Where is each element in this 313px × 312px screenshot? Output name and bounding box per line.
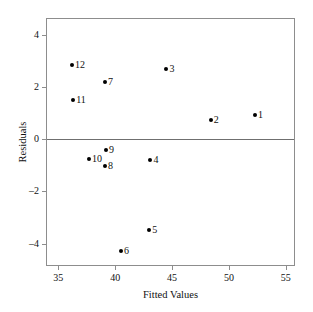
plot-area: 420–2–43540455055123456789101112 [47,19,294,265]
data-point [87,157,91,161]
data-point [71,98,75,102]
y-axis-label: Residuals [17,122,28,163]
y-axis-tick-label: 4 [34,30,39,40]
y-axis-tick [42,87,47,88]
data-point-label: 9 [109,145,114,155]
data-point [148,158,152,162]
data-point [147,228,151,232]
y-axis-tick [42,139,47,140]
x-axis-label: Fitted Values [46,289,295,300]
y-axis-tick [42,35,47,36]
plot-frame: 420–2–43540455055123456789101112 [46,18,295,266]
data-point [70,63,74,67]
data-point-label: 4 [153,155,158,165]
x-axis-tick-label: 50 [224,273,234,283]
data-point [103,80,107,84]
residual-plot-figure: 420–2–43540455055123456789101112 Fitted … [0,0,313,312]
data-point-label: 1 [258,110,263,120]
y-axis-tick [42,191,47,192]
x-axis-tick [172,265,173,270]
data-point-label: 2 [214,115,219,125]
x-axis-tick-label: 45 [167,273,177,283]
y-axis-tick [42,244,47,245]
x-axis-tick-label: 35 [53,273,63,283]
x-axis-tick [115,265,116,270]
x-axis-tick-label: 40 [110,273,120,283]
y-axis-tick-label: –2 [29,186,39,196]
y-axis-tick-label: 2 [34,82,39,92]
y-axis-tick-label: –4 [29,239,39,249]
x-axis-tick [229,265,230,270]
data-point-label: 7 [108,77,113,87]
zero-residual-line [47,139,294,140]
data-point-label: 10 [92,154,102,164]
data-point [104,148,108,152]
data-point [103,164,107,168]
data-point-label: 3 [169,64,174,74]
x-axis-tick [58,265,59,270]
data-point [119,249,123,253]
data-point [209,118,213,122]
data-point-label: 11 [76,95,86,105]
data-point-label: 8 [108,161,113,171]
data-point [253,113,257,117]
x-axis-tick [286,265,287,270]
x-axis-tick-label: 55 [281,273,291,283]
data-point-label: 5 [152,225,157,235]
data-point-label: 12 [75,60,85,70]
y-axis-tick-label: 0 [34,134,39,144]
data-point-label: 6 [124,246,129,256]
data-point [164,67,168,71]
